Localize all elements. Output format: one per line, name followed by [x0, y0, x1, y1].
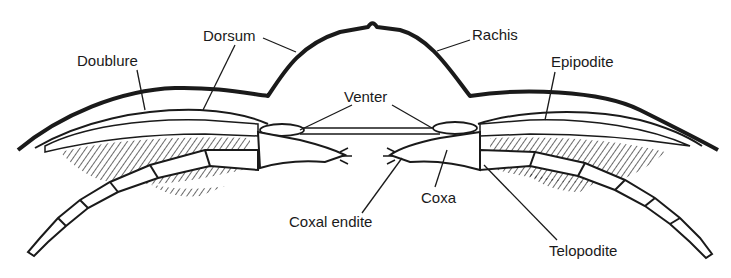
- label-doublure: Doublure: [77, 53, 138, 68]
- venter: [300, 128, 440, 134]
- label-coxal-endite: Coxal endite: [289, 214, 372, 229]
- label-epipodite: Epipodite: [551, 54, 614, 69]
- coxa-left: [258, 132, 345, 168]
- trilobite-cross-section-diagram: [0, 0, 731, 278]
- label-rachis: Rachis: [472, 27, 518, 42]
- leader-venter-left: [300, 105, 352, 130]
- leader-coxal-endite: [362, 158, 402, 213]
- coxa-oval-right: [433, 122, 477, 134]
- leader-venter-right: [392, 105, 432, 128]
- label-venter: Venter: [344, 89, 387, 104]
- label-telopodite: Telopodite: [549, 243, 617, 258]
- label-coxa: Coxa: [421, 190, 456, 205]
- leader-rachis: [437, 40, 470, 51]
- label-dorsum: Dorsum: [203, 28, 256, 43]
- coxa-right: [390, 132, 480, 170]
- leader-dorsum: [203, 45, 235, 110]
- leader-dorsum-upper: [263, 38, 296, 52]
